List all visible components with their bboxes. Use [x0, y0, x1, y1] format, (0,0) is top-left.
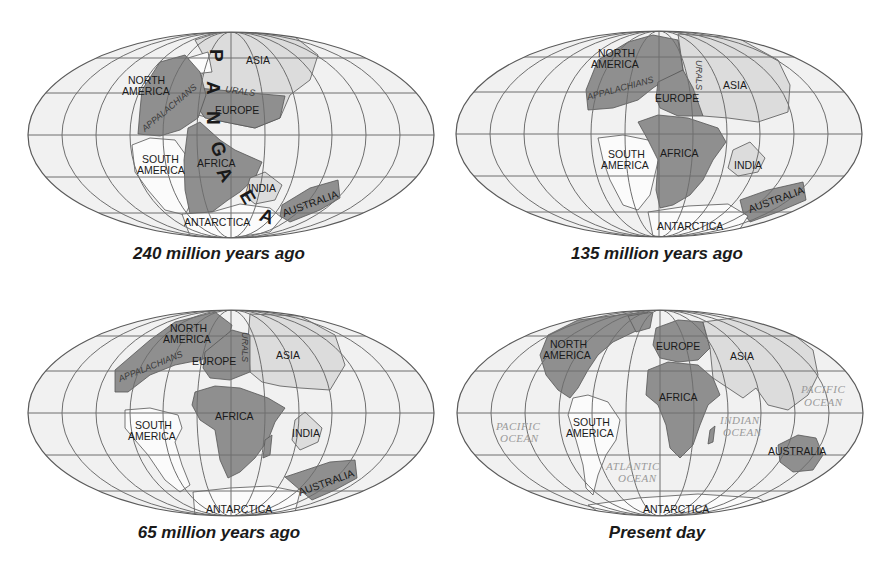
- world-map-240mya: ASIA URALS EUROPE NORTH AMERICA APPALACH…: [0, 0, 438, 280]
- pangaea-letter-p: P: [206, 49, 227, 62]
- label-asia: ASIA: [276, 349, 300, 361]
- label-north-america-2: AMERICA: [122, 85, 170, 97]
- label-asia: ASIA: [730, 350, 754, 362]
- world-map-65mya: NORTH AMERICA APPALACHIANS EUROPE URALS …: [0, 280, 438, 561]
- label-india: INDIA: [292, 427, 320, 439]
- world-map-135mya: NORTH AMERICA APPALACHIANS URALS EUROPE …: [438, 0, 876, 280]
- label-antarctica: ANTARCTICA: [657, 220, 723, 232]
- label-north-america-2: AMERICA: [163, 333, 211, 345]
- world-map-present: NORTH AMERICA EUROPE ASIA AFRICA SOUTH A…: [438, 280, 876, 561]
- label-africa: AFRICA: [659, 391, 698, 403]
- label-africa: AFRICA: [660, 147, 699, 159]
- label-antarctica: ANTARCTICA: [643, 503, 709, 515]
- label-antarctica: ANTARCTICA: [206, 503, 272, 515]
- map-panel-240mya: ASIA URALS EUROPE NORTH AMERICA APPALACH…: [0, 0, 438, 280]
- label-pacific-ocean-west-2: OCEAN: [500, 432, 539, 444]
- label-africa: AFRICA: [215, 410, 254, 422]
- caption-present: Present day: [438, 523, 876, 543]
- map-panel-65mya: NORTH AMERICA APPALACHIANS EUROPE URALS …: [0, 280, 438, 560]
- label-pacific-ocean-east-1: PACIFIC: [800, 383, 845, 395]
- label-asia: ASIA: [246, 54, 270, 66]
- label-urals: URALS: [694, 60, 704, 90]
- label-europe: EUROPE: [656, 340, 700, 352]
- label-atlantic-ocean-1: ATLANTIC: [605, 460, 660, 472]
- label-south-america-2: AMERICA: [128, 430, 176, 442]
- caption-135mya: 135 million years ago: [438, 244, 876, 264]
- pangaea-letter-n: N: [203, 111, 224, 125]
- caption-65mya: 65 million years ago: [0, 523, 438, 543]
- label-europe: EUROPE: [655, 92, 699, 104]
- caption-240mya: 240 million years ago: [0, 244, 438, 264]
- label-urals: URALS: [240, 332, 250, 362]
- label-atlantic-ocean-2: OCEAN: [618, 472, 657, 484]
- label-south-america-2: AMERICA: [137, 164, 185, 176]
- label-asia: ASIA: [723, 79, 747, 91]
- label-indian-ocean-1: INDIAN: [719, 414, 760, 426]
- label-south-america-2: AMERICA: [566, 427, 614, 439]
- map-panel-present: NORTH AMERICA EUROPE ASIA AFRICA SOUTH A…: [438, 280, 876, 560]
- label-indian-ocean-2: OCEAN: [723, 426, 762, 438]
- label-south-america-2: AMERICA: [601, 159, 649, 171]
- pangaea-letter-a1: A: [203, 81, 224, 95]
- map-panel-135mya: NORTH AMERICA APPALACHIANS URALS EUROPE …: [438, 0, 876, 280]
- label-pacific-ocean-east-2: OCEAN: [804, 396, 843, 408]
- label-north-america-2: AMERICA: [591, 58, 639, 70]
- label-india: INDIA: [734, 159, 762, 171]
- label-australia: AUSTRALIA: [768, 445, 826, 457]
- label-north-america-2: AMERICA: [543, 349, 591, 361]
- label-europe: EUROPE: [192, 355, 236, 367]
- label-antarctica: ANTARCTICA: [184, 216, 250, 228]
- label-pacific-ocean-west-1: PACIFIC: [495, 420, 540, 432]
